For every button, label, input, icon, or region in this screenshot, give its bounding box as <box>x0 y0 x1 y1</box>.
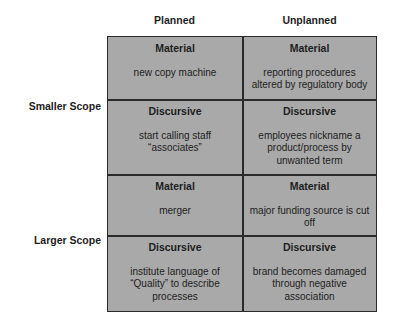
cell-small-unplanned-discursive: Discursive employees nickname a product/… <box>243 100 376 174</box>
cell-kind: Discursive <box>243 105 376 118</box>
cell-desc: major funding source is cut off <box>243 205 376 230</box>
cell-desc: start calling staff “associates” <box>108 130 242 155</box>
cell-small-unplanned-material: Material reporting procedures altered by… <box>243 37 376 99</box>
cell-kind: Discursive <box>243 241 376 254</box>
scope-planning-matrix: Material new copy machine Material repor… <box>107 36 377 312</box>
cell-desc: merger <box>108 205 242 218</box>
column-header-unplanned: Unplanned <box>242 14 377 26</box>
cell-desc: institute language of “Quality” to descr… <box>108 266 242 304</box>
cell-desc: employees nickname a product/process by … <box>243 130 376 168</box>
cell-kind: Material <box>108 42 242 55</box>
column-header-planned: Planned <box>107 14 242 26</box>
cell-kind: Material <box>108 180 242 193</box>
cell-desc: reporting procedures altered by regulato… <box>243 67 376 92</box>
cell-kind: Material <box>243 180 376 193</box>
row-header-larger-scope: Larger Scope <box>0 234 101 246</box>
cell-desc: brand becomes damaged through negative a… <box>243 266 376 304</box>
cell-small-planned-material: Material new copy machine <box>108 37 242 99</box>
cell-large-planned-discursive: Discursive institute language of “Qualit… <box>108 236 242 311</box>
cell-small-planned-discursive: Discursive start calling staff “associat… <box>108 100 242 174</box>
cell-desc: new copy machine <box>108 67 242 80</box>
cell-kind: Material <box>243 42 376 55</box>
cell-large-unplanned-material: Material major funding source is cut off <box>243 175 376 235</box>
cell-kind: Discursive <box>108 241 242 254</box>
cell-large-planned-material: Material merger <box>108 175 242 235</box>
cell-large-unplanned-discursive: Discursive brand becomes damaged through… <box>243 236 376 311</box>
cell-kind: Discursive <box>108 105 242 118</box>
row-header-smaller-scope: Smaller Scope <box>0 100 101 112</box>
